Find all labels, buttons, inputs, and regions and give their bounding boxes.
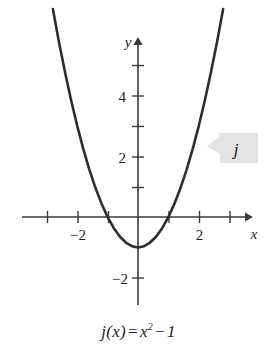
y-tick-label-4: 4 (119, 89, 127, 105)
y-axis-arrow-icon (133, 37, 142, 45)
x-axis-arrow-icon (245, 212, 253, 221)
equation-term-variable: x (140, 322, 148, 341)
equation-constant: 1 (167, 322, 176, 341)
function-callout: j (207, 133, 258, 163)
x-axis: −2 2 x (22, 211, 258, 243)
callout-label: j (232, 140, 239, 159)
figure-container: j −2 2 x (0, 0, 277, 357)
y-tick-label--2: −2 (112, 271, 128, 287)
equation-equals: = (126, 322, 140, 341)
equation-variable: x (112, 322, 120, 341)
y-axis: 4 2 −2 y (112, 34, 144, 305)
y-tick-label-2: 2 (119, 150, 127, 166)
equation-caption: j(x)=x2−1 (0, 322, 277, 342)
callout-shape (207, 133, 258, 163)
x-axis-label: x (250, 226, 258, 242)
equation-minus: − (153, 322, 167, 341)
y-axis-label: y (123, 34, 132, 50)
x-tick-label--2: −2 (70, 227, 86, 243)
x-tick-label-2: 2 (196, 227, 204, 243)
parabola-plot: j −2 2 x (0, 0, 277, 357)
